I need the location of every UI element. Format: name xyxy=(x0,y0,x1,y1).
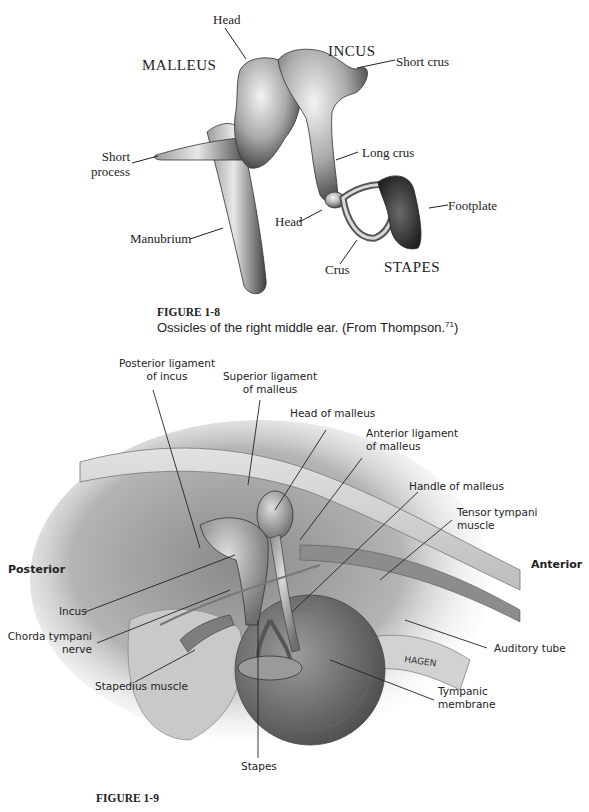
label-auditory-tube: Auditory tube xyxy=(494,642,566,655)
label-short-process-2: process xyxy=(82,164,130,179)
figure-1-8-title: FIGURE 1-8 xyxy=(157,306,220,318)
label-posterior-ligament-1: Posterior ligament xyxy=(107,357,227,370)
figure-1-8-caption: Ossicles of the right middle ear. (From … xyxy=(157,320,458,335)
label-tympanic-membrane-1: Tympanic xyxy=(438,685,488,698)
label-superior-ligament-2: of malleus xyxy=(210,383,330,396)
label-anterior: Anterior xyxy=(531,558,582,571)
label-tensor-tympani-1: Tensor tympani xyxy=(457,506,538,519)
figure-1-8: Head MALLEUS INCUS Short crus Short proc… xyxy=(0,0,589,300)
label-stapes: STAPES xyxy=(384,260,440,275)
label-long-crus: Long crus xyxy=(362,145,414,160)
label-superior-ligament-1: Superior ligament xyxy=(210,370,330,383)
label-tympanic-membrane-2: membrane xyxy=(438,698,495,711)
label-short-crus: Short crus xyxy=(396,54,449,69)
figure-1-9-title: FIGURE 1-9 xyxy=(96,792,159,804)
label-footplate: Footplate xyxy=(448,198,497,213)
label-incus: INCUS xyxy=(328,44,376,59)
label-handle-of-malleus: Handle of malleus xyxy=(409,480,504,493)
label-malleus: MALLEUS xyxy=(142,58,216,73)
label-short-process-1: Short xyxy=(82,149,130,164)
label-tensor-tympani-2: muscle xyxy=(457,519,495,532)
label-anterior-ligament-2: of malleus xyxy=(366,440,421,453)
label-posterior: Posterior xyxy=(8,563,65,576)
label-chorda-tympani-1: Chorda tympani xyxy=(2,630,92,643)
label-chorda-tympani-2: nerve xyxy=(2,643,92,656)
label-incus: Incus xyxy=(59,605,87,618)
middle-ear-illustration: HAGEN xyxy=(0,355,589,812)
label-head-stapes: Head xyxy=(275,214,302,229)
label-manubrium: Manubrium xyxy=(130,231,191,246)
label-crus: Crus xyxy=(325,262,350,277)
label-stapedius-muscle: Stapedius muscle xyxy=(95,680,188,693)
label-stapes: Stapes xyxy=(241,760,277,773)
label-head-of-malleus: Head of malleus xyxy=(290,407,375,420)
label-anterior-ligament-1: Anterior ligament xyxy=(366,427,458,440)
label-posterior-ligament-2: of incus xyxy=(107,370,227,383)
figure-1-9: HAGEN Posterior ligament of incus Superi… xyxy=(0,355,589,812)
label-head: Head xyxy=(213,12,240,27)
